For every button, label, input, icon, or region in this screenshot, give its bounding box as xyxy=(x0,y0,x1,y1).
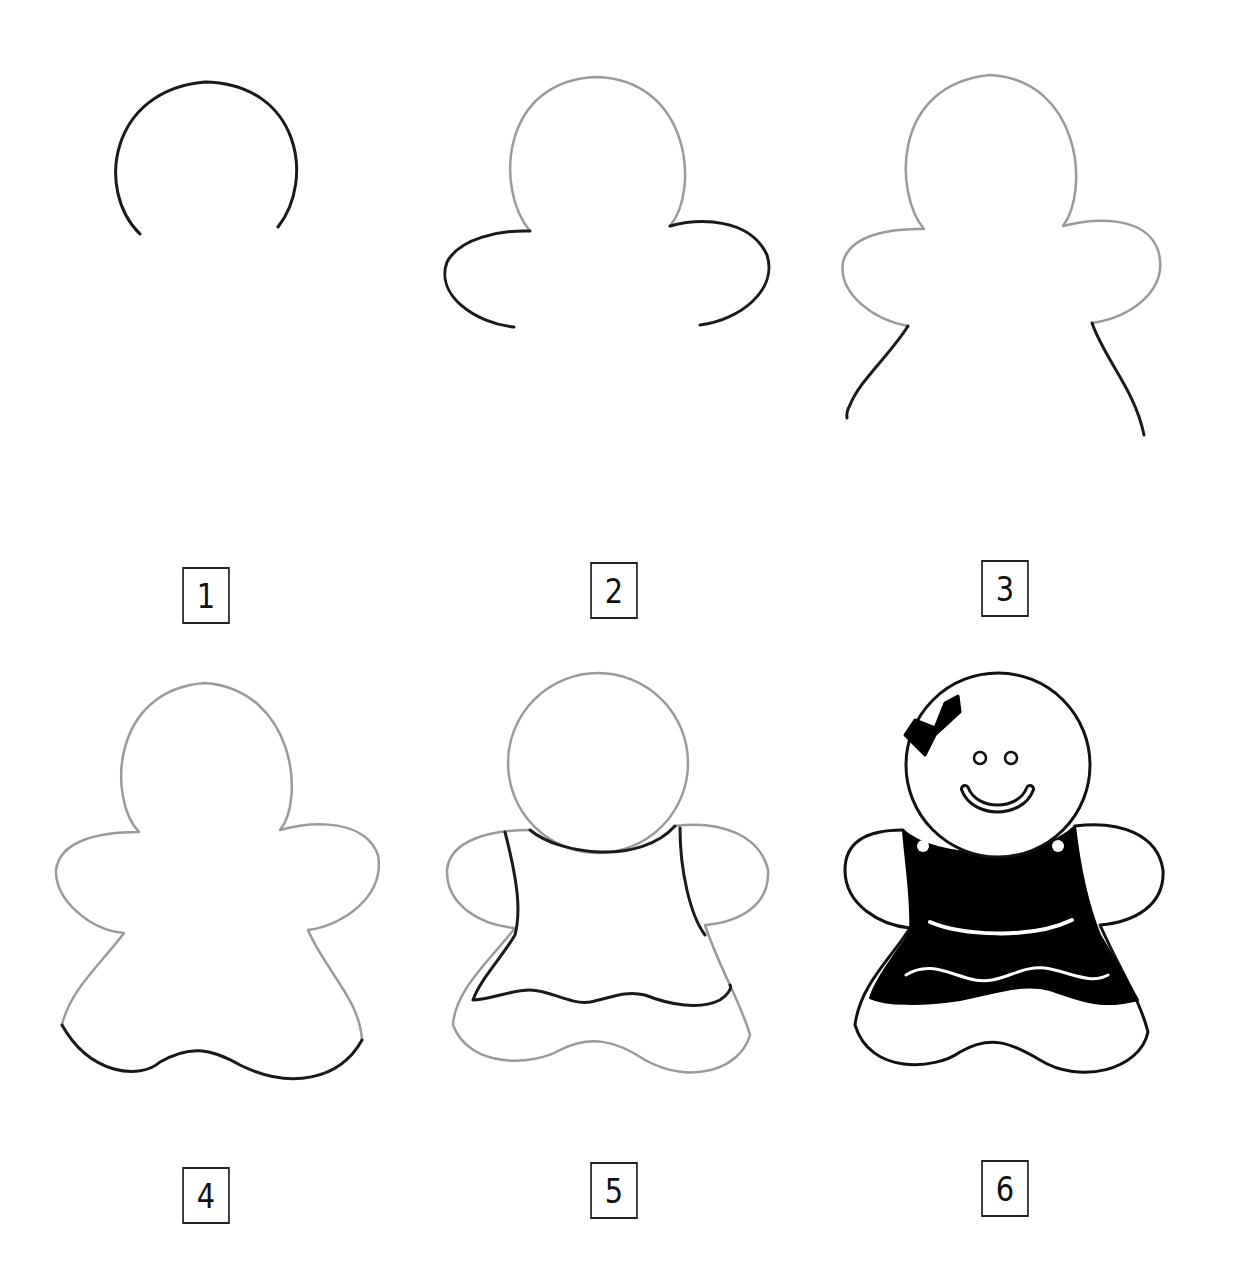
step-label-4: 4 xyxy=(182,1167,230,1224)
step-3-drawing xyxy=(843,75,1161,435)
step-label-6: 6 xyxy=(981,1160,1029,1217)
left-body-side xyxy=(847,326,908,418)
right-body-side xyxy=(1092,323,1144,435)
step-6-drawing xyxy=(845,673,1163,1072)
left-eye xyxy=(974,752,986,764)
left-arm xyxy=(445,231,530,327)
dress-right-side xyxy=(680,828,705,935)
left-strap-button xyxy=(917,840,929,852)
step-label-2: 2 xyxy=(590,562,638,619)
right-strap-button xyxy=(1052,840,1064,852)
head-circle xyxy=(906,673,1090,857)
wavy-bottom xyxy=(62,1025,362,1079)
step-1-drawing xyxy=(116,82,297,234)
step-5-drawing xyxy=(447,673,768,1072)
head-outline-previous xyxy=(510,77,685,231)
step-2-drawing xyxy=(445,77,769,327)
drawing-canvas xyxy=(0,0,1239,1277)
arms-body-previous xyxy=(447,825,768,1073)
step-label-1: 1 xyxy=(182,567,230,624)
right-eye xyxy=(1005,752,1017,764)
right-arm xyxy=(670,222,769,325)
dress-left-side xyxy=(473,832,731,1005)
head-arms-previous xyxy=(843,75,1161,326)
step-label-5: 5 xyxy=(590,1162,638,1219)
head-circle-previous xyxy=(508,673,688,853)
head-arc xyxy=(116,82,297,234)
step-4-drawing xyxy=(56,683,379,1079)
body-outline-previous xyxy=(56,683,379,1040)
step-label-3: 3 xyxy=(981,560,1029,617)
